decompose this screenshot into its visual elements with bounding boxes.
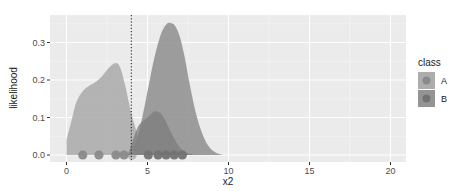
legend: class AB [418,57,447,107]
x-axis-title: x2 [223,176,234,187]
y-tick-label: 0.1 [32,113,45,123]
data-point-b [178,150,187,159]
y-tick-label: 0.2 [32,75,45,85]
data-point-a [78,150,87,159]
y-tick-label: 0.0 [32,150,45,160]
legend-point-icon [423,95,431,103]
data-point-b [162,150,171,159]
legend-point-icon [423,77,431,85]
data-point-a [119,150,128,159]
data-point-a [94,150,103,159]
y-axis-title: likelihood [8,67,19,109]
x-tick-label: 0 [64,166,69,176]
data-point-b [144,150,153,159]
y-tick-label: 0.3 [32,38,45,48]
x-tick-label: 15 [304,166,314,176]
data-point-b [153,150,162,159]
x-tick-label: 20 [385,166,395,176]
data-point-b [170,150,179,159]
legend-label: B [441,94,447,104]
legend-title: class [418,57,441,68]
data-point-a [128,150,137,159]
x-axis: 05101520 [64,162,396,176]
legend-label: A [441,76,447,86]
y-axis: 0.00.10.20.3 [32,38,50,161]
x-tick-label: 10 [223,166,233,176]
x-tick-label: 5 [145,166,150,176]
density-chart: 05101520 0.00.10.20.3 x2 likelihood clas… [0,0,464,191]
data-point-a [111,150,120,159]
